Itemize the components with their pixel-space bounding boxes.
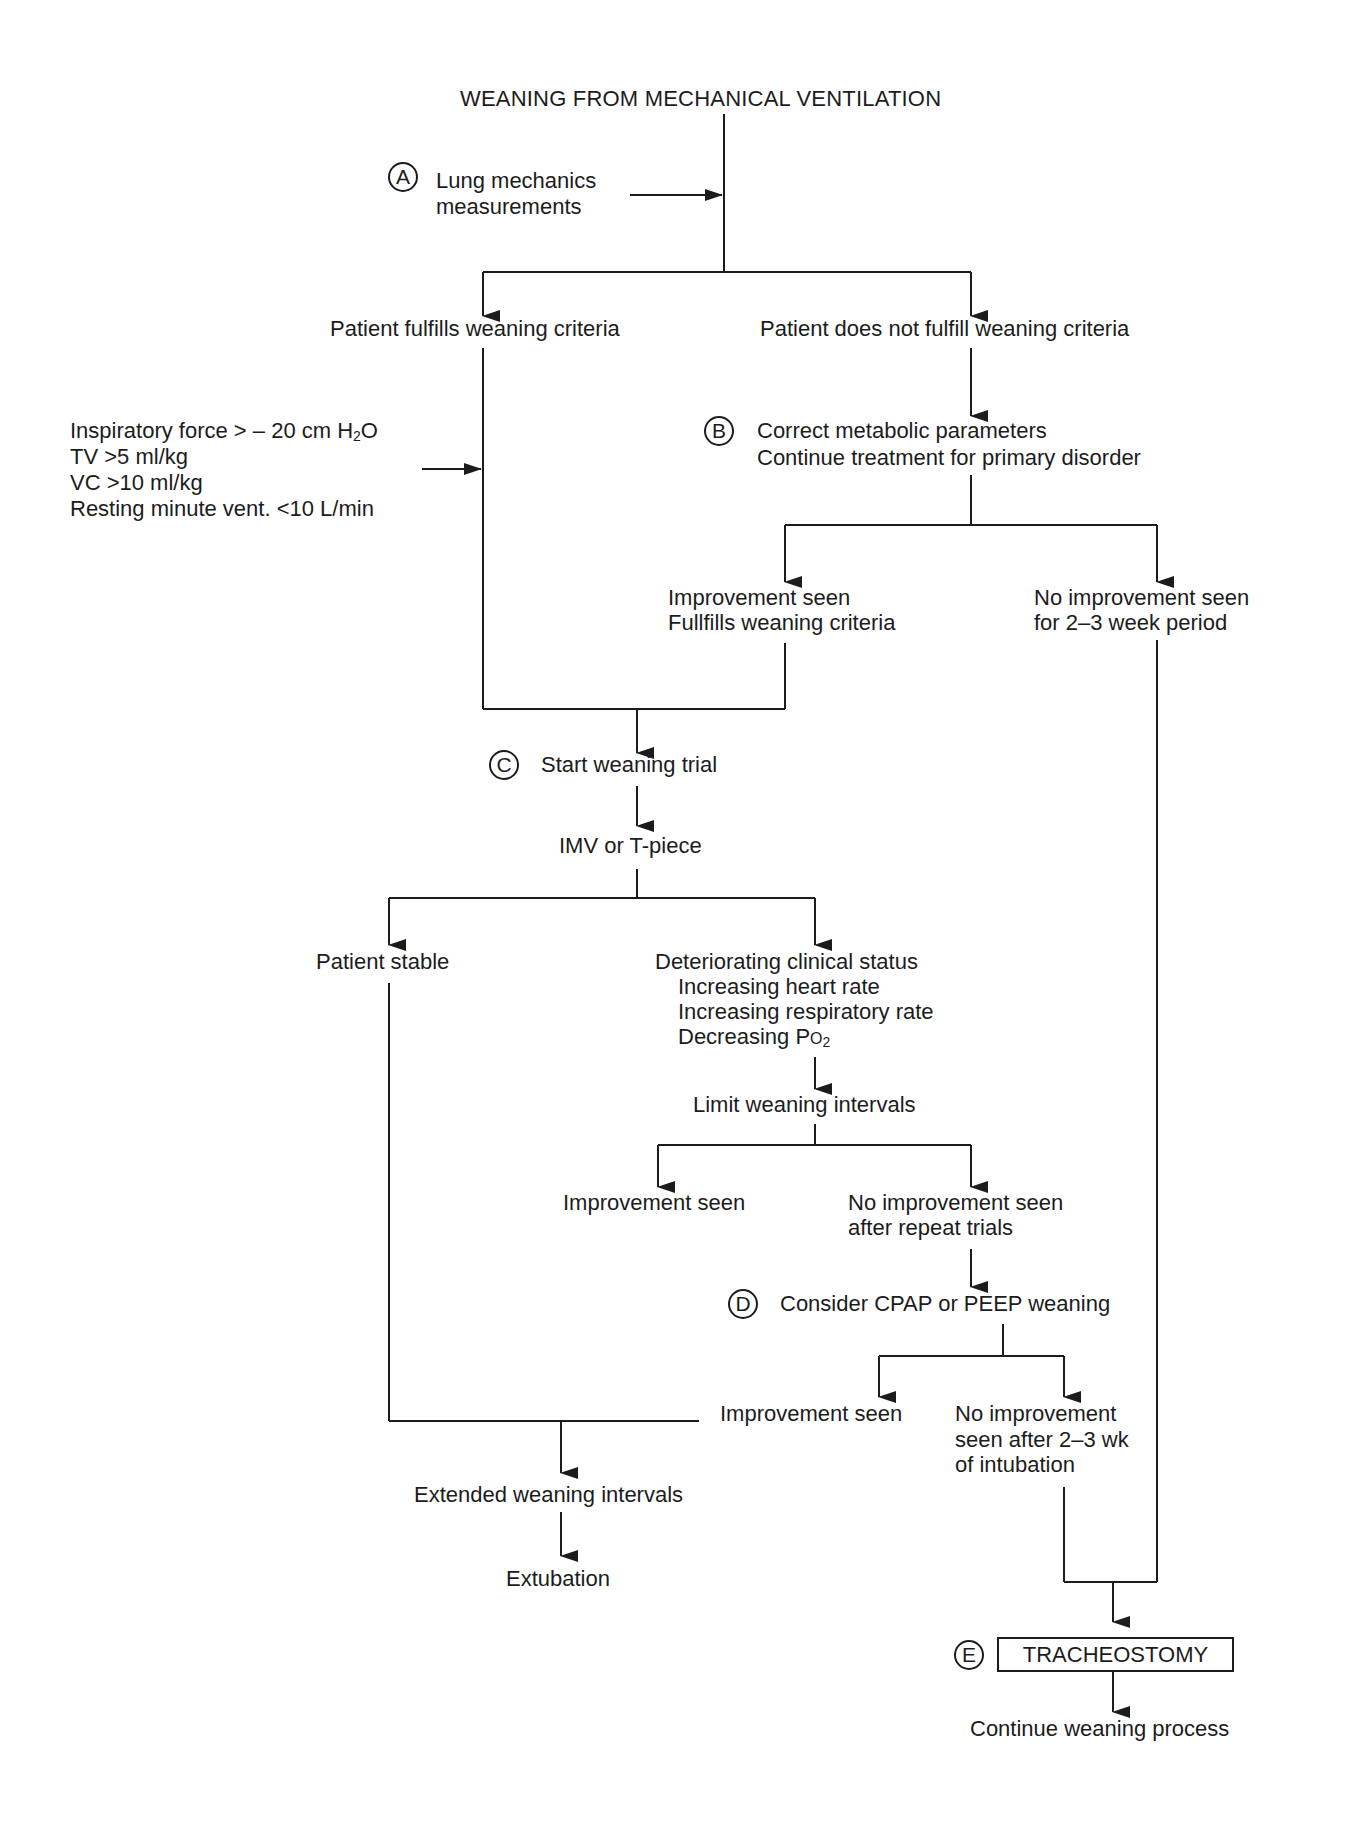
continue-weaning-node: Continue weaning process: [970, 1716, 1229, 1742]
criteria-tv: TV >5 ml/kg: [70, 444, 188, 470]
fulfills-criteria-node: Patient fulfills weaning criteria: [330, 316, 620, 342]
diagram-title: WEANING FROM MECHANICAL VENTILATION: [460, 86, 941, 112]
step-e-marker: E: [954, 1640, 984, 1670]
increasing-heart-rate: Increasing heart rate: [678, 974, 880, 1000]
lung-mechanics-label-2: measurements: [436, 194, 582, 220]
flowchart: WEANING FROM MECHANICAL VENTILATION A Lu…: [0, 0, 1356, 1829]
step-d-marker: D: [728, 1289, 758, 1319]
tracheostomy-box: TRACHEOSTOMY: [997, 1637, 1234, 1672]
deteriorating-status-node: Deteriorating clinical status: [655, 949, 918, 975]
b-improvement-node-2: Fullfills weaning criteria: [668, 610, 895, 636]
lung-mechanics-label: Lung mechanics: [436, 168, 596, 194]
b-improvement-node: Improvement seen: [668, 585, 850, 611]
limit-improvement-node: Improvement seen: [563, 1190, 745, 1216]
patient-stable-node: Patient stable: [316, 949, 449, 975]
criteria-inspiratory-force: Inspiratory force > – 20 cm H2O: [70, 418, 378, 444]
continue-treatment-label: Continue treatment for primary disorder: [757, 445, 1141, 471]
limit-weaning-node: Limit weaning intervals: [693, 1092, 916, 1118]
b-no-improvement-node-2: for 2–3 week period: [1034, 610, 1227, 636]
increasing-respiratory-rate: Increasing respiratory rate: [678, 999, 934, 1025]
step-c-marker: C: [489, 750, 519, 780]
correct-metabolic-label: Correct metabolic parameters: [757, 418, 1047, 444]
extended-weaning-node: Extended weaning intervals: [414, 1482, 683, 1508]
d-no-improvement-node: No improvement: [955, 1401, 1116, 1427]
b-no-improvement-node: No improvement seen: [1034, 585, 1249, 611]
criteria-minute-vent: Resting minute vent. <10 L/min: [70, 496, 374, 522]
not-fulfills-criteria-node: Patient does not fulfill weaning criteri…: [760, 316, 1129, 342]
consider-cpap-peep-node: Consider CPAP or PEEP weaning: [780, 1291, 1110, 1317]
limit-no-improvement-node-2: after repeat trials: [848, 1215, 1013, 1241]
d-no-improvement-node-3: of intubation: [955, 1452, 1075, 1478]
decreasing-po2: Decreasing PO2: [678, 1024, 830, 1052]
start-weaning-trial-node: Start weaning trial: [541, 752, 717, 778]
connector-lines: [0, 0, 1356, 1829]
imv-t-piece-node: IMV or T-piece: [559, 833, 702, 859]
step-a-marker: A: [388, 162, 418, 192]
step-b-marker: B: [704, 416, 734, 446]
d-improvement-node: Improvement seen: [720, 1401, 902, 1427]
limit-no-improvement-node: No improvement seen: [848, 1190, 1063, 1216]
d-no-improvement-node-2: seen after 2–3 wk: [955, 1427, 1129, 1453]
criteria-vc: VC >10 ml/kg: [70, 470, 203, 496]
extubation-node: Extubation: [506, 1566, 610, 1592]
